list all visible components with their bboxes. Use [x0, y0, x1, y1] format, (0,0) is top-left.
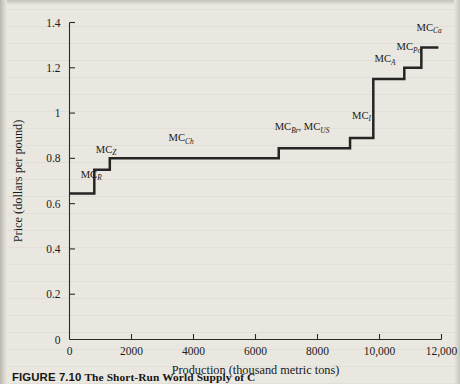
- x-tick-label: 4000: [182, 345, 205, 357]
- y-axis-title: Price (dollars per pound): [11, 120, 25, 243]
- series-label-mc-po: MCPo: [397, 41, 422, 55]
- series-label-mc-a: MCA: [375, 53, 397, 67]
- y-tick-label: 1.4: [46, 17, 61, 29]
- step-supply-chart: 00.20.40.60.811.21.4 0200040006000800010…: [0, 0, 460, 384]
- series-label-mc-ch: MCCh: [169, 132, 194, 146]
- series-label-mc-i: MCI: [352, 110, 372, 124]
- x-tick-label: 8000: [306, 345, 329, 357]
- y-tick-label: 0.4: [46, 243, 61, 255]
- supply-step-path: [70, 47, 439, 193]
- y-tick-label: 1.2: [46, 62, 61, 74]
- x-axis: 0200040006000800010,00012,000: [67, 334, 458, 358]
- supply-curve: [70, 47, 439, 193]
- x-tick-label: 2000: [120, 345, 143, 357]
- y-tick-label: 1: [55, 107, 61, 119]
- figure-caption-label: FIGURE 7.10: [12, 371, 81, 383]
- figure-caption-body: The Short-Run World Supply of C: [84, 371, 255, 383]
- x-tick-label: 6000: [244, 345, 267, 357]
- figure-caption: FIGURE 7.10 The Short-Run World Supply o…: [12, 371, 452, 384]
- series-label-mc-br: MCBr, MCUS: [275, 121, 330, 135]
- x-tick-label: 12,000: [426, 345, 458, 358]
- y-tick-label: 0: [55, 334, 61, 346]
- y-tick-label: 0.2: [46, 288, 61, 300]
- y-tick-label: 0.8: [46, 152, 61, 164]
- series-label-mc-z: MCZ: [96, 144, 118, 158]
- series-label-mc-ca: MCCa: [417, 22, 442, 36]
- x-tick-label: 10,000: [364, 345, 396, 358]
- textbook-page: 00.20.40.60.811.21.4 0200040006000800010…: [0, 0, 460, 384]
- x-tick-label: 0: [67, 345, 73, 357]
- y-axis: 00.20.40.60.811.21.4: [46, 17, 75, 346]
- figure-7-10: 00.20.40.60.811.21.4 0200040006000800010…: [0, 0, 460, 384]
- y-tick-label: 0.6: [46, 198, 61, 210]
